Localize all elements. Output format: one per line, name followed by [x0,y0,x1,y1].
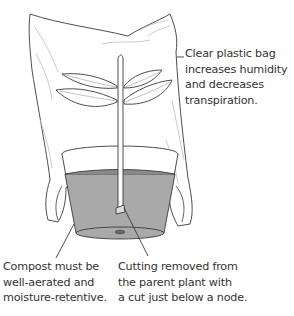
annotation-line: Cutting removed from [118,259,247,275]
annotation-line: a cut just below a node. [118,290,247,306]
annotation-cutting: Cutting removed from the parent plant wi… [118,259,247,306]
propagation-diagram: Clear plastic bag increases humidity and… [0,0,294,316]
annotation-compost: Compost must be well-aerated and moistur… [3,259,107,306]
annotation-line: transpiration. [185,93,287,109]
annotation-line: well-aerated and [3,275,107,291]
annotation-line: and decreases [185,77,287,93]
annotation-line: Compost must be [3,259,107,275]
annotation-plastic-bag: Clear plastic bag increases humidity and… [185,46,287,108]
leader-compost [56,224,74,258]
annotation-line: Clear plastic bag [185,46,287,62]
annotation-line: increases humidity [185,62,287,78]
annotation-line: the parent plant with [118,275,247,291]
annotation-line: moisture-retentive. [3,290,107,306]
